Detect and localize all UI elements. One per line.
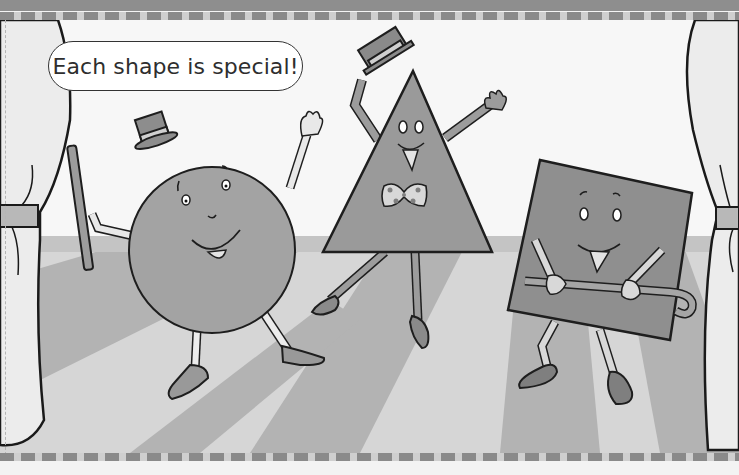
top-band [0, 0, 739, 11]
speech-bubble: Each shape is special! [48, 41, 303, 91]
bottom-checkered-border [0, 453, 739, 461]
illustration-page: Each shape is special! [0, 0, 739, 475]
bottom-band [0, 461, 739, 475]
top-checkered-border [0, 12, 739, 20]
left-dashed-margin [5, 20, 6, 455]
speech-bubble-text: Each shape is special! [52, 54, 298, 79]
